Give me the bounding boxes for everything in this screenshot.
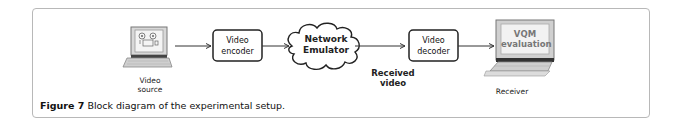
- decoder-label-line2: decoder: [409, 46, 458, 57]
- network-label-line2: Emulator: [296, 45, 356, 56]
- vqm-line2: evaluation: [501, 39, 549, 49]
- figure-caption-label: Figure 7: [40, 100, 84, 111]
- receiver-label: Receiver: [488, 87, 536, 96]
- vqm-evaluation-screen-text: VQM evaluation: [501, 29, 549, 49]
- decoder-label: Video decoder: [409, 35, 458, 57]
- received-video-label: Received video: [368, 68, 418, 88]
- video-source-label-line2: source: [128, 85, 172, 94]
- received-label-line1: Received: [368, 68, 418, 78]
- video-source-label-line1: Video: [128, 76, 172, 85]
- encoder-label-line1: Video: [213, 35, 262, 46]
- vqm-line1: VQM: [501, 29, 549, 39]
- video-source-label: Video source: [128, 76, 172, 94]
- figure-caption: Figure 7 Block diagram of the experiment…: [40, 100, 285, 111]
- network-emulator-label: Network Emulator: [296, 34, 356, 56]
- network-label-line1: Network: [296, 34, 356, 45]
- decoder-label-line1: Video: [409, 35, 458, 46]
- encoder-label-line2: encoder: [213, 46, 262, 57]
- encoder-label: Video encoder: [213, 35, 262, 57]
- figure-caption-text: Block diagram of the experimental setup.: [84, 100, 285, 111]
- source-computer-icon: [123, 27, 172, 67]
- received-label-line2: video: [368, 78, 418, 88]
